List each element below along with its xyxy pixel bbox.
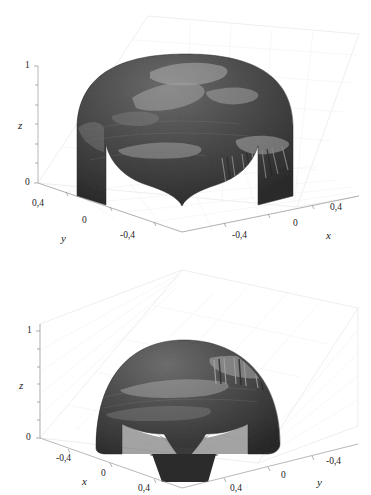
top-y-tick-1: 0 — [82, 216, 87, 226]
top-z-tick-1: 1 — [25, 61, 30, 71]
top-y-tick-0: 0,4 — [32, 199, 44, 209]
bottom-x-tick-2: 0,4 — [138, 484, 150, 494]
bottom-x-tick-1: 0 — [101, 469, 106, 479]
bottom-y-tick-0: 0,4 — [230, 484, 242, 494]
bottom-y-tick-1: 0 — [281, 471, 286, 481]
surface-plot-bottom: 1 0 z -0,4 0 0,4 x 0,4 0 -0,4 y — [0, 248, 371, 495]
top-y-tick-2: -0,4 — [120, 231, 135, 241]
bottom-z-tick-0: 0 — [26, 433, 31, 443]
top-x-tick-0: -0,4 — [232, 231, 247, 241]
surface-plot-top: 1 0 z 0,4 0 -0,4 y -0,4 0 0,4 x — [0, 0, 371, 247]
top-y-axis-title: y — [61, 233, 66, 244]
plot-bottom-stage: 1 0 z -0,4 0 0,4 x 0,4 0 -0,4 y — [0, 248, 371, 495]
bottom-x-tick-0: -0,4 — [56, 454, 71, 464]
bottom-y-tick-2: -0,4 — [326, 457, 341, 467]
plot-top-canvas — [0, 0, 371, 247]
top-x-axis-title: x — [326, 230, 331, 241]
bottom-x-axis-title: x — [82, 476, 87, 487]
plot-top-surface — [77, 54, 293, 206]
bottom-z-tick-1: 1 — [27, 326, 32, 336]
plot-top-stage: 1 0 z 0,4 0 -0,4 y -0,4 0 0,4 x — [0, 0, 371, 247]
top-z-tick-0: 0 — [25, 178, 30, 188]
bottom-y-axis-title: y — [317, 477, 322, 488]
top-x-tick-1: 0 — [293, 219, 298, 229]
bottom-z-axis-title: z — [19, 380, 23, 391]
top-z-axis-title: z — [18, 120, 22, 131]
top-x-tick-2: 0,4 — [330, 203, 342, 213]
